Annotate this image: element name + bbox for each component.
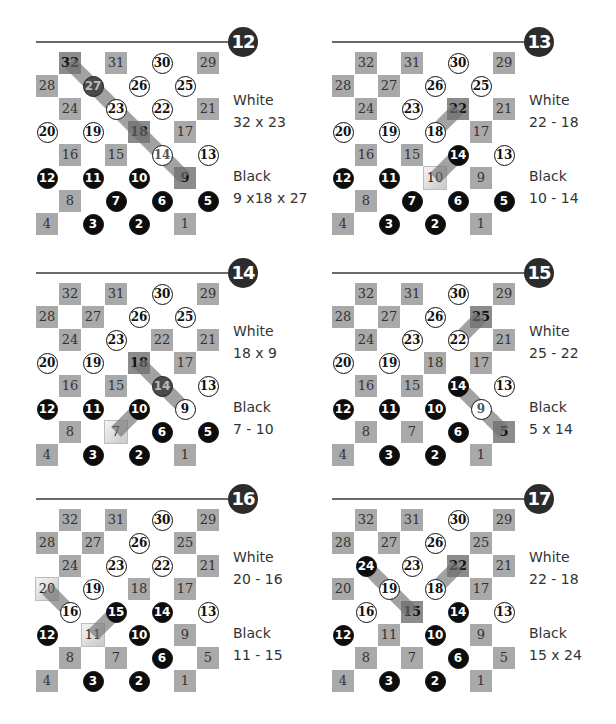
- black-piece: 10: [129, 399, 150, 420]
- diagram-number-badge: 17: [524, 484, 554, 514]
- white-piece: 18: [425, 122, 446, 143]
- pieces-layer: 2361012131416181923242630: [332, 509, 516, 693]
- black-piece: 3: [83, 671, 104, 692]
- white-piece: 20: [37, 353, 58, 374]
- white-piece: 13: [494, 602, 515, 623]
- black-piece: 10: [129, 168, 150, 189]
- white-piece: 23: [402, 330, 423, 351]
- black-piece: 14: [448, 376, 469, 397]
- black-piece: 11: [379, 168, 400, 189]
- black-move: 10 - 14: [529, 189, 579, 208]
- black-piece: 3: [379, 671, 400, 692]
- white-piece: 23: [402, 99, 423, 120]
- white-piece: 19: [83, 122, 104, 143]
- white-piece: 22: [152, 556, 173, 577]
- black-label: Black: [529, 624, 567, 643]
- black-piece: 12: [333, 168, 354, 189]
- black-label: Black: [529, 167, 567, 186]
- black-piece: 6: [448, 648, 469, 669]
- white-label: White: [233, 548, 274, 567]
- white-piece: 22: [152, 99, 173, 120]
- black-piece: 12: [37, 399, 58, 420]
- black-piece: 6: [152, 191, 173, 212]
- black-piece: 2: [425, 214, 446, 235]
- white-label: White: [233, 322, 274, 341]
- white-piece: 30: [448, 284, 469, 305]
- white-move: 18 x 9: [233, 344, 277, 363]
- black-piece: 3: [83, 445, 104, 466]
- black-move: 11 - 15: [233, 646, 283, 665]
- white-piece: 19: [379, 122, 400, 143]
- diagram-13: 1314891015161721222427282931322356711121…: [332, 41, 616, 251]
- black-piece: 6: [152, 648, 173, 669]
- diagram-12: 1214891516171821242829313223567101112131…: [36, 41, 332, 251]
- white-piece: 9: [175, 399, 196, 420]
- white-label: White: [529, 548, 570, 567]
- white-piece: 23: [402, 556, 423, 577]
- white-piece: 26: [129, 76, 150, 97]
- black-move: 15 x 24: [529, 646, 582, 665]
- white-piece: 13: [494, 376, 515, 397]
- white-piece: 22: [448, 330, 469, 351]
- black-piece: 2: [425, 445, 446, 466]
- white-move: 20 - 16: [233, 570, 283, 589]
- black-piece: 7: [402, 191, 423, 212]
- black-piece: 5: [198, 422, 219, 443]
- pieces-layer: 2361012131415161922232630: [36, 509, 220, 693]
- black-piece: 10: [425, 399, 446, 420]
- black-piece: 11: [379, 399, 400, 420]
- black-label: Black: [233, 167, 271, 186]
- white-piece: 25: [175, 307, 196, 328]
- black-piece: 12: [37, 625, 58, 646]
- white-piece: 19: [83, 353, 104, 374]
- black-piece: 5: [494, 191, 515, 212]
- black-piece: 15: [106, 602, 127, 623]
- black-piece: 14: [448, 602, 469, 623]
- white-piece: 26: [129, 533, 150, 554]
- white-piece: 20: [37, 122, 58, 143]
- header-rule: [332, 498, 528, 500]
- white-piece: 30: [152, 53, 173, 74]
- white-move: 25 - 22: [529, 344, 579, 363]
- white-piece: 18: [425, 579, 446, 600]
- white-move: 32 x 23: [233, 113, 286, 132]
- black-piece: 14: [448, 145, 469, 166]
- black-label: Black: [529, 398, 567, 417]
- black-piece: 12: [333, 625, 354, 646]
- diagram-17: 1714578911151720212225272829313223610121…: [332, 498, 616, 708]
- white-piece: 26: [425, 533, 446, 554]
- white-piece: 26: [425, 76, 446, 97]
- black-piece: 6: [448, 422, 469, 443]
- pieces-layer: 235691011121314192023252630: [36, 283, 220, 467]
- captured-white-piece: 9: [471, 399, 492, 420]
- white-move: 22 - 18: [529, 570, 579, 589]
- white-piece: 30: [152, 284, 173, 305]
- white-label: White: [233, 91, 274, 110]
- black-piece: 24: [356, 556, 377, 577]
- white-label: White: [529, 322, 570, 341]
- pieces-layer: 235671112131418192023252630: [332, 52, 516, 236]
- black-piece: 3: [83, 214, 104, 235]
- white-label: White: [529, 91, 570, 110]
- white-piece: 20: [333, 122, 354, 143]
- white-move: 22 - 18: [529, 113, 579, 132]
- white-piece: 13: [494, 145, 515, 166]
- diagram-number-badge: 16: [228, 484, 258, 514]
- white-piece: 13: [198, 145, 219, 166]
- black-move: 9 x18 x 27: [233, 189, 307, 208]
- black-piece: 2: [129, 214, 150, 235]
- black-piece: 11: [83, 168, 104, 189]
- white-piece: 19: [379, 579, 400, 600]
- black-piece: 10: [425, 625, 446, 646]
- captured-black-piece: 14: [152, 376, 173, 397]
- black-piece: 12: [333, 399, 354, 420]
- black-piece: 14: [152, 602, 173, 623]
- header-rule: [36, 498, 232, 500]
- black-piece: 5: [198, 191, 219, 212]
- black-label: Black: [233, 624, 271, 643]
- black-move: 5 x 14: [529, 420, 573, 439]
- white-piece: 30: [448, 53, 469, 74]
- header-rule: [332, 272, 528, 274]
- white-piece: 26: [425, 307, 446, 328]
- black-piece: 3: [379, 445, 400, 466]
